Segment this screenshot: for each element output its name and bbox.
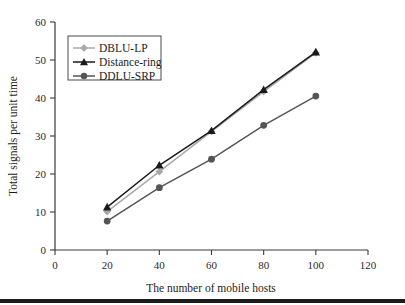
y-tick-label: 20 bbox=[35, 168, 47, 180]
data-point-marker bbox=[155, 161, 163, 169]
legend-item-label: DBLU-LP bbox=[99, 42, 148, 54]
data-point-marker bbox=[312, 48, 320, 56]
legend-item-label: Distance-ring bbox=[99, 56, 162, 69]
y-tick-label: 0 bbox=[41, 244, 47, 256]
x-tick-label: 0 bbox=[52, 259, 58, 271]
x-tick-label: 20 bbox=[102, 259, 114, 271]
page-bottom-rule bbox=[0, 299, 405, 303]
x-axis-title: The number of mobile hosts bbox=[146, 282, 276, 294]
x-axis-ticks: 020406080100120 bbox=[52, 250, 377, 271]
y-axis-ticks: 0102030405060 bbox=[35, 16, 55, 256]
data-point-marker bbox=[260, 122, 267, 129]
data-point-marker bbox=[312, 93, 319, 100]
y-axis-title: Total signals per unit time bbox=[7, 76, 20, 196]
figure-container: 0102030405060 020406080100120 The number… bbox=[0, 0, 405, 305]
line-chart: 0102030405060 020406080100120 The number… bbox=[0, 0, 405, 305]
x-tick-label: 80 bbox=[258, 259, 270, 271]
y-tick-label: 50 bbox=[35, 54, 47, 66]
data-point-marker bbox=[81, 73, 87, 79]
x-tick-label: 40 bbox=[154, 259, 166, 271]
legend: DBLU-LPDistance-ringDDLU-SRP bbox=[68, 36, 162, 82]
x-tick-label: 60 bbox=[206, 259, 218, 271]
data-point-marker bbox=[208, 156, 215, 163]
y-tick-label: 10 bbox=[35, 206, 47, 218]
x-tick-label: 100 bbox=[308, 259, 325, 271]
series-ddlu-srp bbox=[104, 93, 319, 225]
x-tick-label: 120 bbox=[360, 259, 377, 271]
y-tick-label: 40 bbox=[35, 92, 47, 104]
data-point-marker bbox=[156, 184, 163, 191]
legend-item-label: DDLU-SRP bbox=[99, 70, 155, 82]
data-point-marker bbox=[104, 218, 111, 225]
y-tick-label: 60 bbox=[35, 16, 47, 28]
y-tick-label: 30 bbox=[35, 130, 47, 142]
